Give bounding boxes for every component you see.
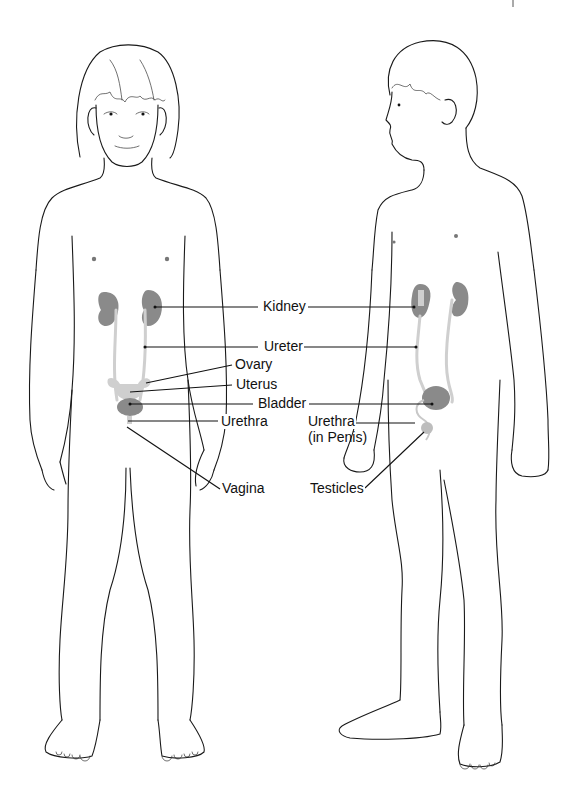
- label-testicles: Testicles: [309, 481, 365, 496]
- label-vagina: Vagina: [221, 481, 266, 496]
- label-urethra-boy: Urethra: [307, 414, 356, 429]
- label-bladder: Bladder: [257, 396, 307, 411]
- boy-bladder: [422, 386, 450, 410]
- label-kidney: Kidney: [262, 299, 307, 314]
- girl-kidneys: [98, 290, 162, 326]
- label-ureter: Ureter: [263, 339, 304, 354]
- label-urethra-girl: Urethra: [220, 414, 269, 429]
- label-urethra-boy-in-penis: (in Penis): [307, 430, 368, 445]
- boy-testicles: [421, 422, 433, 434]
- label-ovary: Ovary: [234, 357, 273, 372]
- boy-figure: [339, 41, 549, 769]
- girl-bladder: [117, 398, 143, 416]
- girl-uterus-ovaries: [107, 378, 150, 400]
- girl-urethra: [127, 416, 132, 424]
- girl-figure: [29, 45, 226, 761]
- label-uterus: Uterus: [235, 377, 278, 392]
- boy-kidneys: [411, 282, 468, 318]
